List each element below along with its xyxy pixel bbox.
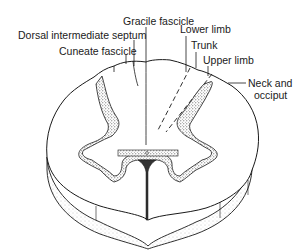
cord-top-face: [47, 60, 259, 220]
label-upper-limb: Upper limb: [203, 55, 254, 66]
spinal-cord-diagram: Gracile fascicle Dorsal intermediate sep…: [0, 0, 297, 251]
label-occiput: occiput: [254, 90, 287, 101]
label-neck-and: Neck and: [248, 78, 292, 89]
label-cuneate-fascicle: Cuneate fascicle: [59, 46, 137, 57]
label-lower-limb: Lower limb: [180, 24, 231, 35]
label-dorsal-intermediate-septum: Dorsal intermediate septum: [18, 30, 146, 41]
label-trunk: Trunk: [191, 40, 217, 51]
